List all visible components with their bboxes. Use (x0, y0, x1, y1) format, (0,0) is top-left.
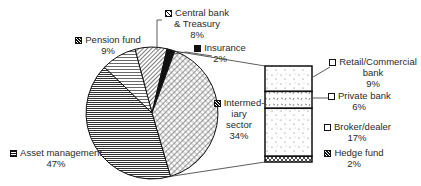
label-intermediary-sector: Intermed- iary sector 34% (213, 97, 265, 141)
bar-broker (265, 108, 312, 156)
label-retail-bank: Retail/Commercial bank 9% (327, 56, 419, 89)
insurance-swatch-icon (194, 45, 201, 52)
label-broker-dealer: Broker/dealer 17% (324, 121, 390, 143)
pension-swatch-icon (75, 37, 82, 44)
breakdown-bar (265, 66, 312, 162)
label-private-bank: Private bank 6% (328, 90, 390, 112)
central-bank-swatch-icon (165, 10, 172, 17)
intermediary-swatch-icon (214, 100, 221, 107)
label-asset-management: Asset management 47% (10, 147, 102, 169)
bar-hedge (265, 156, 312, 162)
asset-management-swatch-icon (10, 150, 17, 157)
bar-retail (265, 66, 312, 91)
retail-swatch-icon (329, 59, 336, 66)
private-bank-swatch-icon (328, 93, 335, 100)
pie (86, 47, 218, 179)
label-central-bank: Central bank & Treasury 8% (162, 7, 232, 40)
broker-swatch-icon (324, 124, 331, 131)
label-hedge-fund: Hedge fund 2% (324, 147, 384, 169)
bar-private (265, 91, 312, 108)
hedge-fund-swatch-icon (324, 150, 331, 157)
label-pension-fund: Pension fund 9% (66, 34, 150, 56)
label-insurance: Insurance 2% (186, 42, 254, 64)
